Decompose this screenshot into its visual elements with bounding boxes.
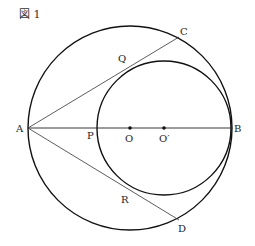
center-o-dot — [128, 126, 132, 130]
label-o: O — [125, 133, 133, 144]
geometry-figure: 図 1 A B C D P Q R O O′ — [0, 0, 255, 246]
label-r: R — [121, 194, 129, 205]
label-a: A — [15, 123, 24, 134]
tangent-line-ac — [28, 37, 179, 128]
label-q: Q — [118, 53, 126, 64]
center-o-prime-dot — [162, 126, 166, 130]
label-c: C — [180, 26, 188, 37]
label-b: B — [234, 123, 241, 134]
label-d: D — [178, 223, 186, 234]
figure-title: 図 1 — [19, 8, 41, 21]
label-o-prime: O′ — [159, 133, 170, 144]
label-p: P — [87, 130, 94, 141]
tangent-line-ad — [28, 128, 179, 220]
